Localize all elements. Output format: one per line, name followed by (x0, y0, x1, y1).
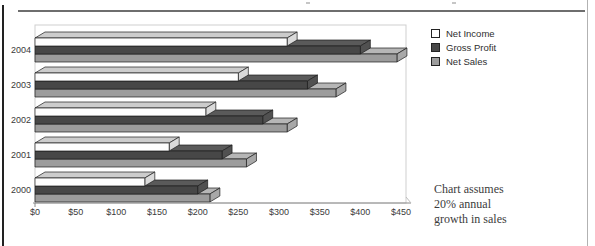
y-axis-label-2004: 2004 (11, 45, 31, 55)
bar-2003-net-income (35, 67, 248, 81)
bar-2004-net-income (35, 32, 297, 46)
net-sales-swatch-icon (431, 57, 440, 66)
annotation-line: growth in sales (434, 212, 554, 227)
y-axis-label-2001: 2001 (11, 150, 31, 160)
x-tick-label-$300: $300 (269, 207, 289, 217)
annotation-line: Chart assumes (434, 182, 554, 197)
x-tick-label-$0: $0 (30, 207, 40, 217)
x-tick-label-$200: $200 (188, 207, 208, 217)
x-tick-label-$100: $100 (106, 207, 126, 217)
scanned-book-page: { "page": { "background": "#ffffff", "to… (0, 0, 595, 246)
y-axis-label-2003: 2003 (11, 80, 31, 90)
net-income-swatch-icon (431, 29, 440, 38)
gross-profit-swatch-icon (431, 43, 440, 52)
floor-corner-edge (406, 197, 411, 203)
chart-annotation: Chart assumes 20% annual growth in sales (434, 182, 554, 227)
annotation-line: 20% annual (434, 197, 554, 212)
x-tick-label-$250: $250 (228, 207, 248, 217)
legend-label-net-income: Net Income (446, 28, 495, 39)
x-tick-label-$150: $150 (147, 207, 167, 217)
legend-item-net-sales: Net Sales (431, 54, 496, 68)
x-tick-label-$450: $450 (391, 207, 411, 217)
legend-label-net-sales: Net Sales (446, 56, 487, 67)
chart-legend: Net Income Gross Profit Net Sales (431, 26, 496, 68)
bar-2000-net-income (35, 172, 155, 186)
y-axis-label-2000: 2000 (11, 185, 31, 195)
bar-2002-net-income (35, 102, 216, 116)
y-axis-label-2002: 2002 (11, 115, 31, 125)
legend-label-gross-profit: Gross Profit (446, 42, 496, 53)
x-tick-label-$400: $400 (350, 207, 370, 217)
legend-item-net-income: Net Income (431, 26, 496, 40)
bar-2001-net-income (35, 137, 179, 151)
x-tick-label-$350: $350 (310, 207, 330, 217)
x-tick-label-$50: $50 (68, 207, 83, 217)
legend-item-gross-profit: Gross Profit (431, 40, 496, 54)
